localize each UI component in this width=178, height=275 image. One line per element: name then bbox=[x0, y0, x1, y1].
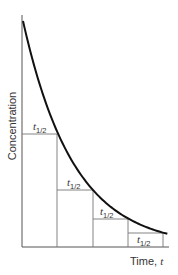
y-axis-title: Concentration bbox=[6, 92, 18, 161]
x-axis-title: Time, t bbox=[130, 255, 164, 267]
half-life-diagram: t1/2 t1/2 t1/2 t1/2 Concentration Time, … bbox=[0, 0, 178, 275]
half-life-label-1: t1/2 bbox=[33, 120, 47, 135]
half-life-label-2: t1/2 bbox=[67, 176, 81, 191]
half-life-label-4: t1/2 bbox=[137, 233, 151, 248]
